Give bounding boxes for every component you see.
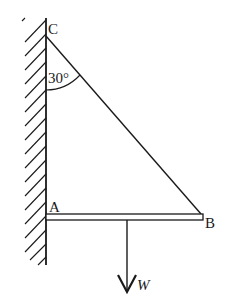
load-arrow <box>118 220 136 292</box>
beam-diagram: C 30° A B W <box>0 0 231 307</box>
string-cb <box>46 36 201 214</box>
wall <box>22 18 46 265</box>
label-a: A <box>49 199 60 215</box>
label-angle: 30° <box>48 70 69 86</box>
label-b: B <box>205 215 215 231</box>
label-c: C <box>48 21 58 37</box>
wall-hatching <box>22 18 46 265</box>
beam-ab <box>46 214 203 220</box>
label-w: W <box>137 277 151 293</box>
